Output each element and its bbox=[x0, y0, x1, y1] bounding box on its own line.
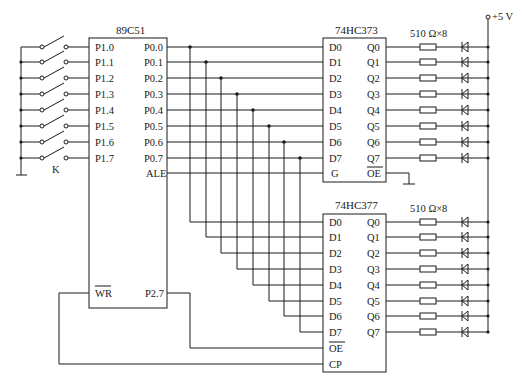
pin-q4: Q4 bbox=[367, 105, 381, 116]
pin-q6: Q6 bbox=[367, 311, 380, 322]
pin-d6: D6 bbox=[329, 137, 342, 148]
pin-d1: D1 bbox=[329, 232, 342, 243]
pin-p0-7: P0.7 bbox=[144, 153, 163, 164]
pin-p1-4: P1.4 bbox=[95, 105, 115, 116]
pin-q0: Q0 bbox=[367, 217, 380, 228]
pin-d0: D0 bbox=[329, 42, 342, 53]
pin-q5: Q5 bbox=[367, 296, 380, 307]
pin-q3: Q3 bbox=[367, 89, 380, 100]
pin-p1-5: P1.5 bbox=[95, 121, 114, 132]
pin-p1-7: P1.7 bbox=[95, 153, 114, 164]
resistor-icon bbox=[420, 44, 436, 161]
pin-q5: Q5 bbox=[367, 121, 380, 132]
pin-p0-4: P0.4 bbox=[144, 105, 164, 116]
latch373-q-pins: Q0 Q1 Q2 Q3 Q4 Q5 Q6 Q7 OE bbox=[367, 42, 381, 179]
pin-oe: OE bbox=[367, 168, 381, 179]
pin-q1: Q1 bbox=[367, 232, 380, 243]
pin-d2: D2 bbox=[329, 73, 342, 84]
led-icon bbox=[462, 217, 468, 337]
pin-p0-2: P0.2 bbox=[144, 73, 163, 84]
oe-ground-wire bbox=[386, 173, 415, 184]
pin-p0-6: P0.6 bbox=[144, 137, 163, 148]
pin-oe: OE bbox=[329, 343, 343, 354]
pin-p1-0: P1.0 bbox=[95, 42, 114, 53]
pin-p0-5: P0.5 bbox=[144, 121, 163, 132]
pin-d4: D4 bbox=[329, 105, 343, 116]
led-bank-373 bbox=[386, 42, 488, 163]
pin-d5: D5 bbox=[329, 121, 342, 132]
pin-wr: WR bbox=[95, 288, 112, 299]
led-bank-377 bbox=[386, 217, 488, 337]
pin-d1: D1 bbox=[329, 57, 342, 68]
pin-q3: Q3 bbox=[367, 264, 380, 275]
pin-p0-3: P0.3 bbox=[144, 89, 163, 100]
data-bus-377 bbox=[190, 47, 323, 332]
pin-q0: Q0 bbox=[367, 42, 380, 53]
switch-bank bbox=[16, 36, 89, 175]
resistor-label-373: 510 Ω×8 bbox=[410, 28, 447, 39]
pin-q2: Q2 bbox=[367, 248, 380, 259]
pin-p1-2: P1.2 bbox=[95, 73, 114, 84]
pin-p1-3: P1.3 bbox=[95, 89, 114, 100]
pin-q1: Q1 bbox=[367, 57, 380, 68]
circuit-diagram: 89C51 P1.0 P1.1 P1.2 P1.3 P1.4 P1.5 P1.6… bbox=[0, 0, 522, 391]
pin-d7: D7 bbox=[329, 327, 342, 338]
pin-q4: Q4 bbox=[367, 280, 381, 291]
pin-p0-1: P0.1 bbox=[144, 57, 163, 68]
pin-cp: CP bbox=[329, 359, 342, 370]
latch377-title: 74HC377 bbox=[335, 199, 378, 211]
pin-p1-1: P1.1 bbox=[95, 57, 114, 68]
mcu-title: 89C51 bbox=[116, 24, 145, 36]
latch373-d-pins: D0 D1 D2 D3 D4 D5 D6 D7 G bbox=[329, 42, 343, 179]
pin-d7: D7 bbox=[329, 153, 342, 164]
pin-p0-0: P0.0 bbox=[144, 42, 163, 53]
latch373-title: 74HC373 bbox=[335, 24, 378, 36]
pin-p2-7: P2.7 bbox=[145, 288, 164, 299]
pin-q2: Q2 bbox=[367, 73, 380, 84]
pin-d6: D6 bbox=[329, 311, 342, 322]
vcc-label: +5 V bbox=[492, 11, 514, 22]
switch-label: K bbox=[52, 164, 60, 175]
pin-d4: D4 bbox=[329, 280, 343, 291]
pin-d3: D3 bbox=[329, 264, 342, 275]
pin-ale: ALE bbox=[146, 168, 166, 179]
switch-rows bbox=[21, 36, 89, 160]
pin-d2: D2 bbox=[329, 248, 342, 259]
pin-d0: D0 bbox=[329, 217, 342, 228]
pin-q6: Q6 bbox=[367, 137, 380, 148]
led-icon bbox=[462, 42, 468, 163]
pin-q7: Q7 bbox=[367, 327, 380, 338]
pin-q7: Q7 bbox=[367, 153, 380, 164]
resistor-icon bbox=[420, 219, 436, 335]
pin-g: G bbox=[331, 168, 339, 179]
vcc-terminal bbox=[486, 15, 490, 19]
resistor-label-377: 510 Ω×8 bbox=[410, 203, 447, 214]
pin-d3: D3 bbox=[329, 89, 342, 100]
pin-p1-6: P1.6 bbox=[95, 137, 114, 148]
pin-d5: D5 bbox=[329, 296, 342, 307]
